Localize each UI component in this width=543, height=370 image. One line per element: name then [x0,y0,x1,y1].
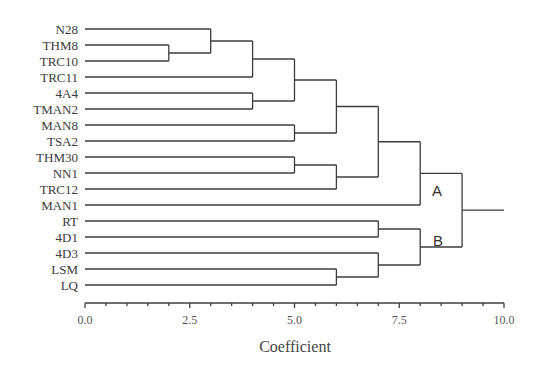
leaf-label: LQ [61,278,79,293]
leaf-label: TRC12 [40,182,78,197]
leaf-label: MAN1 [41,198,78,213]
tick-label: 0.0 [78,313,93,327]
leaf-label: 4D1 [56,230,78,245]
leaf-labels: N28THM8TRC10TRC114A4TMAN2MAN8TSA2THM30NN… [33,22,78,293]
leaf-label: TSA2 [47,134,78,149]
leaf-label: 4A4 [56,86,79,101]
dendrogram-chart: N28THM8TRC10TRC114A4TMAN2MAN8TSA2THM30NN… [0,0,543,370]
x-axis: 0.02.55.07.510.0 [78,303,515,327]
leaf-label: TRC11 [40,70,78,85]
tick-label: 10.0 [494,313,515,327]
leaf-label: RT [62,214,78,229]
tick-label: 2.5 [182,313,197,327]
leaf-label: THM30 [36,150,78,165]
tick-label: 5.0 [287,313,302,327]
cluster-label-a: A [432,182,442,199]
leaf-label: N28 [56,22,78,37]
leaf-label: TMAN2 [33,102,78,117]
tick-label: 7.5 [392,313,407,327]
x-axis-title: Coefficient [259,338,331,355]
leaf-label: THM8 [43,38,78,53]
leaf-label: TRC10 [40,54,78,69]
leaf-label: NN1 [53,166,78,181]
leaf-label: 4D3 [56,246,78,261]
leaf-label: MAN8 [41,118,78,133]
leaf-label: LSM [51,262,78,277]
cluster-label-b: B [433,232,443,249]
